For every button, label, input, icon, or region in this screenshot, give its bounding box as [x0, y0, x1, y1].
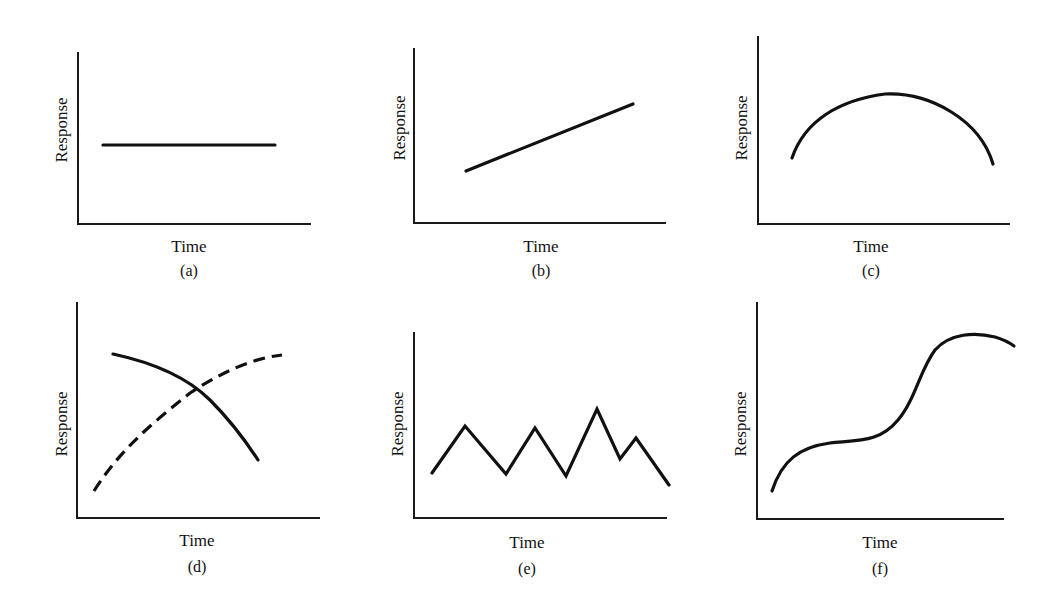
- panel-c: Response Time (c): [732, 36, 1010, 280]
- panel-caption: (b): [532, 262, 551, 280]
- panel-caption: (d): [188, 558, 207, 576]
- axes: [78, 52, 311, 224]
- panel-caption: (f): [872, 560, 888, 578]
- y-axis-label: Response: [52, 391, 71, 456]
- y-axis-label: Response: [52, 97, 71, 162]
- curve-decreasing-solid: [113, 354, 258, 460]
- panel-f: Response Time (f): [731, 302, 1014, 578]
- curve-s-shaped: [772, 334, 1014, 491]
- panel-caption: (a): [180, 262, 198, 280]
- panel-d: Response Time (d): [52, 302, 320, 576]
- axes: [414, 48, 666, 223]
- panel-b: Response Time (b): [390, 48, 666, 280]
- figure-response-patterns: Response Time (a) Response Time (b) Resp…: [0, 0, 1059, 604]
- curve-increasing-dashed: [94, 355, 282, 491]
- panel-a: Response Time (a): [52, 52, 311, 280]
- panel-caption: (c): [862, 262, 880, 280]
- curve-arch: [792, 94, 993, 164]
- y-axis-label: Response: [390, 95, 409, 160]
- axes: [77, 302, 320, 518]
- x-axis-label: Time: [509, 533, 544, 552]
- curve-zigzag: [432, 409, 669, 485]
- panel-caption: (e): [518, 560, 536, 578]
- curve-linear-increase: [466, 104, 633, 171]
- x-axis-label: Time: [862, 533, 897, 552]
- y-axis-label: Response: [388, 391, 407, 456]
- panel-e: Response Time (e): [388, 332, 669, 578]
- y-axis-label: Response: [731, 391, 750, 456]
- x-axis-label: Time: [523, 237, 558, 256]
- axes: [414, 332, 667, 518]
- y-axis-label: Response: [732, 95, 751, 160]
- x-axis-label: Time: [171, 237, 206, 256]
- x-axis-label: Time: [853, 237, 888, 256]
- x-axis-label: Time: [179, 531, 214, 550]
